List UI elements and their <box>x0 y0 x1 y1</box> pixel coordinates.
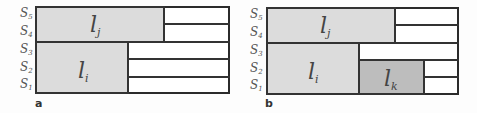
divider-s2-s3 <box>358 59 459 61</box>
block-label-l-k: lk <box>384 68 398 92</box>
panel-label: b <box>265 97 273 110</box>
divider-s4-s5 <box>394 24 459 26</box>
row-label-s5: S5 <box>250 8 263 22</box>
row-label-s1: S1 <box>250 79 263 93</box>
row-label-s3: S3 <box>250 44 263 58</box>
row-label-s4: S4 <box>250 26 263 40</box>
block-l-j <box>266 7 396 44</box>
divider-s1-s2 <box>423 76 459 78</box>
row-label-s2: S2 <box>250 62 263 76</box>
panel-b: S5 S4 S3 S2 S1 lj li lk b <box>0 0 477 113</box>
divider-s3-s4 <box>266 42 459 44</box>
block-label-l-i: li <box>308 61 319 85</box>
block-label-l-j: lj <box>320 15 330 39</box>
